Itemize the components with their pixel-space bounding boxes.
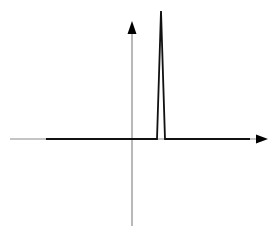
pulse-diagram — [0, 0, 278, 239]
background — [0, 0, 278, 239]
